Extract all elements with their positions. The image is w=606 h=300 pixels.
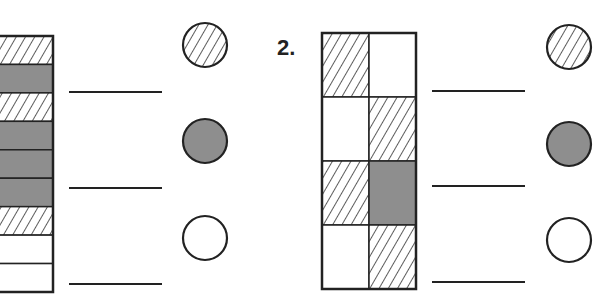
problem-2-answer-lines bbox=[432, 91, 525, 282]
grid-cell-hatched bbox=[369, 225, 416, 289]
problem-1-figure bbox=[0, 36, 53, 292]
stripe-gray bbox=[0, 64, 53, 92]
stripe-gray bbox=[0, 121, 53, 149]
problem-2-legend bbox=[547, 25, 591, 262]
legend-circle-hatched bbox=[183, 23, 227, 67]
stripe-white bbox=[0, 235, 53, 263]
grid-cell-white bbox=[322, 97, 369, 161]
problem-1-answer-lines bbox=[69, 92, 162, 284]
legend-circle-white bbox=[183, 216, 227, 260]
problem-1-legend bbox=[183, 23, 227, 260]
grid-cell-gray bbox=[369, 161, 416, 225]
stripe-gray bbox=[0, 150, 53, 178]
legend-circle-gray bbox=[547, 122, 591, 166]
grid-cell-hatched bbox=[369, 97, 416, 161]
problem-2-number: 2. bbox=[277, 35, 295, 60]
stripe-hatched bbox=[0, 207, 53, 235]
legend-circle-gray bbox=[183, 119, 227, 163]
problem-2-figure bbox=[322, 33, 416, 289]
worksheet-diagram: 2. bbox=[0, 0, 606, 300]
grid-cell-hatched bbox=[322, 33, 369, 97]
stripe-hatched bbox=[0, 36, 53, 64]
legend-circle-white bbox=[547, 218, 591, 262]
legend-circle-hatched bbox=[547, 25, 591, 69]
grid-cell-white bbox=[322, 225, 369, 289]
stripe-gray bbox=[0, 178, 53, 206]
grid-cell-white bbox=[369, 33, 416, 97]
grid-cell-hatched bbox=[322, 161, 369, 225]
stripe-white bbox=[0, 264, 53, 292]
stripe-hatched bbox=[0, 93, 53, 121]
